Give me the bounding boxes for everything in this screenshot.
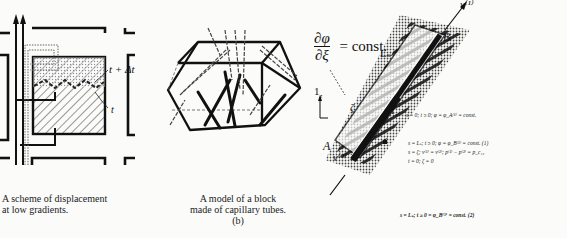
- caption-b: A model of a block made of capillary tub…: [190, 193, 286, 226]
- equation-sLs-2: s = Lₛ; t ≥ 0 = φ_B⁽¹⁾ = const. (2): [400, 212, 474, 219]
- label-B: B: [443, 30, 450, 45]
- equation-t0: t = 0; ζ = 0: [408, 158, 433, 165]
- label-A: A: [323, 139, 330, 154]
- panel-b-capillary-block: A model of a block made of capillary tub…: [150, 0, 310, 238]
- caption-b-line1: A model of a block: [190, 193, 286, 204]
- label-t: t: [111, 104, 114, 115]
- formula-numerator: ∂φ: [314, 30, 330, 47]
- label-1z-sub: z: [320, 92, 323, 100]
- label-1s-sub: s: [395, 111, 398, 119]
- label-v1: v⁽¹⁾: [460, 0, 474, 11]
- equation-s0: s = 0; t ≥ 0; φ = φ_A⁽¹⁾ = const.: [406, 112, 476, 119]
- caption-a: A scheme of displacement at low gradient…: [2, 193, 107, 215]
- label-1s: 1s: [390, 105, 398, 119]
- label-zeta: ζ: [350, 102, 354, 113]
- panel-c-interface-model: ∂φ ∂ξ = const. v⁽¹⁾ B Lₛ ζ 1z 1s A v⁽²⁾ …: [290, 0, 567, 238]
- label-v2: v⁽²⁾: [333, 151, 347, 164]
- label-t-plus-dt: t + Δt: [109, 63, 135, 75]
- panel-a-displacement-scheme: t + Δt t A scheme of displacement at low…: [0, 0, 170, 238]
- caption-b-line2: made of capillary tubes.: [190, 204, 286, 215]
- label-Ls: Lₛ: [380, 47, 390, 60]
- formula-denominator: ∂ξ: [314, 47, 330, 63]
- caption-b-tag: (b): [190, 215, 286, 226]
- formula-dphi-dxi: ∂φ ∂ξ = const.: [314, 30, 387, 63]
- caption-a-line1: A scheme of displacement: [2, 193, 107, 204]
- caption-a-line2: at low gradients.: [2, 204, 107, 215]
- equation-sLs-1: s = Lₛ; t ≥ 0; φ = φ_B⁽¹⁾ = const. (1): [408, 140, 488, 147]
- equation-s-zeta: s = ζ; v⁽¹⁾ = v⁽²⁾; p⁽¹⁾ − p⁽²⁾ = p_c₁₂: [408, 149, 484, 156]
- label-1z: 1z: [314, 85, 322, 100]
